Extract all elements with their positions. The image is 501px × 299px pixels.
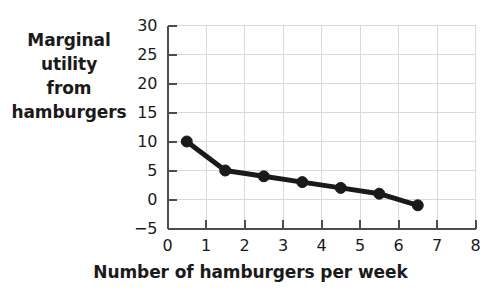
y-axis-tick-label: 5 — [124, 163, 158, 179]
x-axis-tick-label: 1 — [194, 238, 218, 254]
y-axis-tick-label: −5 — [124, 221, 158, 237]
x-axis-tick-label: 8 — [464, 238, 488, 254]
x-axis-tick-label: 3 — [271, 238, 295, 254]
x-axis-ticks — [168, 220, 476, 229]
x-axis-tick-label: 2 — [233, 238, 257, 254]
y-axis-tick-label: 10 — [124, 134, 158, 150]
y-axis-ticks — [168, 26, 177, 229]
x-axis-tick-label: 4 — [310, 238, 334, 254]
y-axis-tick-label: 15 — [124, 105, 158, 121]
plot-area — [0, 0, 501, 299]
x-axis-title: Number of hamburgers per week — [0, 262, 501, 282]
y-axis-tick-label: 0 — [124, 192, 158, 208]
x-axis-tick-label: 6 — [387, 238, 411, 254]
x-axis-tick-label: 5 — [348, 238, 372, 254]
y-axis-tick-label: 20 — [124, 76, 158, 92]
x-axis-tick-label: 7 — [425, 238, 449, 254]
vertical-gridlines — [168, 26, 476, 229]
x-axis-tick-label: 0 — [156, 238, 180, 254]
y-axis-tick-label: 30 — [124, 18, 158, 34]
y-axis-tick-label: 25 — [124, 47, 158, 63]
chart-figure: Marginal utility from hamburgers −505101… — [0, 0, 501, 299]
